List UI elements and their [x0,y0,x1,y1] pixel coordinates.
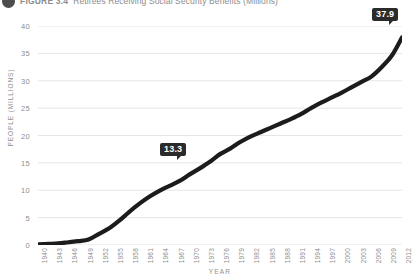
x-axis-ticklabel: 1940 [41,248,48,263]
x-axis-ticklabel: 1964 [162,248,169,263]
x-axis-ticklabel: 2006 [375,248,382,263]
y-axis-ticklabel: 10 [21,186,30,195]
x-axis-ticklabel: 1991 [299,248,306,263]
x-axis-ticklabel: 2009 [390,248,397,263]
filled-circle-icon [2,0,15,8]
x-axis-ticklabel: 1985 [269,248,276,263]
y-axis-ticklabel: 25 [21,104,30,113]
x-axis-title: YEAR [38,268,402,275]
figure-title: Retirees Receiving Social Security Benef… [73,0,278,6]
x-axis-ticklabel: 1973 [208,248,215,263]
x-axis-ticklabel: 1988 [284,248,291,263]
plot-area [38,26,402,245]
y-axis-ticklabels: 0510152025303540 [0,26,34,245]
x-axis-ticklabel: 1979 [238,248,245,263]
figure-number: FIGURE 3.4 [20,0,68,6]
x-axis-ticklabel: 2000 [344,248,351,263]
annotation-callout-13-3: 13.3 [160,143,186,156]
x-axis-ticklabel: 1943 [56,248,63,263]
line-chart-svg [38,26,402,245]
x-axis-ticklabel: 1994 [314,248,321,263]
x-axis-ticklabel: 1955 [117,248,124,263]
x-axis-ticklabel: 1970 [193,248,200,263]
x-axis-ticklabel: 1961 [147,248,154,263]
y-axis-ticklabel: 0 [26,241,30,250]
annotation-callout-37-9: 37.9 [372,8,398,21]
x-axis-ticklabel: 2012 [405,248,412,263]
series-line-retirees [38,38,402,245]
x-axis-ticklabel: 1958 [132,248,139,263]
y-axis-ticklabel: 40 [21,22,30,31]
gridlines [38,26,402,245]
x-axis-ticklabel: 2003 [360,248,367,263]
figure-title-row: FIGURE 3.4 Retirees Receiving Social Sec… [0,0,410,8]
x-axis-ticklabel: 1967 [178,248,185,263]
y-axis-ticklabel: 15 [21,158,30,167]
x-axis-ticklabel: 1976 [223,248,230,263]
x-axis-ticklabel: 1949 [87,248,94,263]
y-axis-ticklabel: 35 [21,49,30,58]
y-axis-ticklabel: 30 [21,76,30,85]
y-axis-ticklabel: 5 [26,213,30,222]
x-axis-ticklabel: 1952 [102,248,109,263]
x-axis-ticklabel: 1946 [71,248,78,263]
y-axis-ticklabel: 20 [21,131,30,140]
x-axis-ticklabel: 1997 [329,248,336,263]
x-axis-ticklabel: 1982 [253,248,260,263]
